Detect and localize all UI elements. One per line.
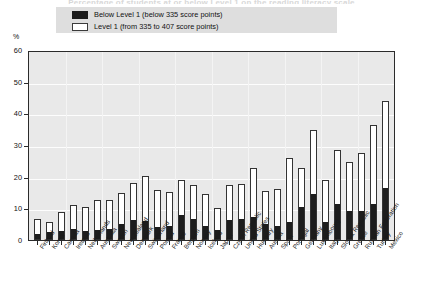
bar-slot: [44, 52, 56, 240]
y-axis-tick-label: 50: [2, 78, 22, 87]
bar-finland: [34, 219, 41, 240]
bar-slot: [319, 52, 331, 240]
x-axis-label-slot: Australia: [91, 246, 103, 303]
x-axis-label-slot: Ireland: [67, 246, 79, 303]
bar-group: [29, 52, 394, 240]
bar-slot: [164, 52, 176, 240]
bar-slot: [140, 52, 152, 240]
x-axis-label-slot: Russian Federation: [356, 246, 368, 303]
x-axis-label-slot: Slovak Republic: [332, 246, 344, 303]
x-axis-label-slot: Luxembourg: [308, 246, 320, 303]
bar-slot: [92, 52, 104, 240]
x-axis-labels: FinlandKoreaCanadaIrelandNetherlandsAust…: [28, 246, 395, 303]
bar-slot: [128, 52, 140, 240]
x-axis-label-slot: Korea: [43, 246, 55, 303]
bar-slot: [32, 52, 44, 240]
x-axis-label-slot: Hungary: [248, 246, 260, 303]
legend-swatch-below-level-1-icon: [72, 11, 88, 19]
legend-swatch-level-1-icon: [72, 23, 88, 31]
y-axis-tick-label: 10: [2, 204, 22, 213]
reading-literacy-bar-chart: Percentage of students at or below Level…: [0, 0, 423, 303]
bar-turkey: [370, 125, 377, 240]
bar-luxembourg: [310, 130, 317, 240]
bar-slot: [331, 52, 343, 240]
x-axis-label-slot: Iceland: [199, 246, 211, 303]
x-axis-label-slot: Germany: [296, 246, 308, 303]
plot-area: [28, 51, 395, 241]
x-axis-label-slot: Mexico: [380, 246, 392, 303]
x-axis-label-slot: Czech Republic: [224, 246, 236, 303]
bar-segment-below-level-1: [35, 234, 40, 239]
legend-label-below-level-1: Below Level 1 (below 335 score points): [94, 10, 223, 19]
bar-slot: [295, 52, 307, 240]
bar-slot: [235, 52, 247, 240]
bar-slot: [200, 52, 212, 240]
y-axis-unit-label: %: [13, 33, 19, 40]
legend-label-level-1: Level 1 (from 335 to 407 score points): [94, 22, 218, 31]
bar-portugal: [286, 158, 293, 240]
bar-slot: [104, 52, 116, 240]
bar-slot: [116, 52, 128, 240]
x-axis-label-slot: Greece: [344, 246, 356, 303]
y-axis-tick-label: 60: [2, 46, 22, 55]
chart-legend: Below Level 1 (below 335 score points) L…: [56, 7, 337, 33]
bar-slot: [259, 52, 271, 240]
x-axis-label-slot: Denmark: [127, 246, 139, 303]
x-axis-label-slot: Poland: [151, 246, 163, 303]
x-axis-label-slot: Norway: [187, 246, 199, 303]
x-axis-label-slot: Canada: [55, 246, 67, 303]
bar-slot: [176, 52, 188, 240]
legend-item-below-level-1: Below Level 1 (below 335 score points): [72, 9, 223, 20]
bar-slot: [80, 52, 92, 240]
x-axis-label-slot: France: [163, 246, 175, 303]
bar-slot: [283, 52, 295, 240]
y-axis-tick-label: 30: [2, 141, 22, 150]
x-axis-label-slot: Portugal: [284, 246, 296, 303]
legend-item-level-1: Level 1 (from 335 to 407 score points): [72, 21, 218, 32]
x-axis-label-slot: Italy: [320, 246, 332, 303]
x-axis-label-slot: Sweden: [103, 246, 115, 303]
x-axis-label-slot: Finland: [31, 246, 43, 303]
bar-slot: [188, 52, 200, 240]
y-axis-tick-label: 20: [2, 173, 22, 182]
bar-slot: [68, 52, 80, 240]
x-axis-label-slot: Switzerland: [139, 246, 151, 303]
bar-slot: [212, 52, 224, 240]
bar-slot: [152, 52, 164, 240]
bar-slot: [307, 52, 319, 240]
x-axis-label-slot: Turkey: [368, 246, 380, 303]
bar-slot: [271, 52, 283, 240]
x-axis-label-slot: United States: [236, 246, 248, 303]
x-axis-label-slot: New Zealand: [115, 246, 127, 303]
bar-slot: [56, 52, 68, 240]
bar-slot: [343, 52, 355, 240]
bar-slot: [224, 52, 236, 240]
x-axis-label-slot: Austria: [260, 246, 272, 303]
x-axis-label-slot: Spain: [272, 246, 284, 303]
x-axis-label-slot: Japan: [211, 246, 223, 303]
chart-title: Percentage of students at or below Level…: [0, 0, 423, 4]
y-axis-tick-label: 0: [2, 236, 22, 245]
y-axis-tick-label: 40: [2, 109, 22, 118]
x-axis-label-slot: Netherlands: [79, 246, 91, 303]
x-axis-label-slot: Belgium: [175, 246, 187, 303]
